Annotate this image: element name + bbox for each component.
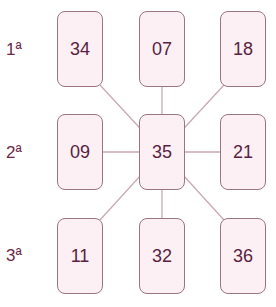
- box-row3-center: 32: [139, 218, 185, 294]
- row-label-3: 3ª: [6, 246, 34, 266]
- box-center: 35: [139, 114, 185, 190]
- box-row3-right: 36: [220, 218, 266, 294]
- box-row2-left: 09: [57, 114, 103, 190]
- box-row1-center: 07: [139, 11, 185, 87]
- box-row1-left: 34: [57, 11, 103, 87]
- box-row3-left: 11: [57, 218, 103, 294]
- row-label-1: 1ª: [6, 40, 34, 60]
- box-row1-right: 18: [220, 11, 266, 87]
- box-row2-right: 21: [220, 114, 266, 190]
- row-label-2: 2ª: [6, 143, 34, 163]
